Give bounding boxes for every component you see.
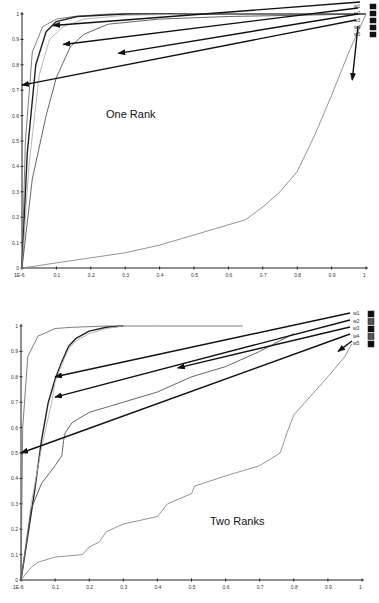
y-tick-label: 0.4 bbox=[12, 163, 19, 169]
series-line-w1 bbox=[21, 326, 243, 580]
x-tick-label: 1 bbox=[363, 272, 366, 278]
y-tick-label: 0.7 bbox=[11, 399, 18, 405]
legend-swatch-w4 bbox=[368, 334, 374, 340]
y-tick-label: 0.8 bbox=[11, 374, 18, 380]
y-tick-label: 0.2 bbox=[12, 214, 19, 220]
x-tick-label: 0.5 bbox=[191, 272, 198, 278]
y-tick-label: 0.1 bbox=[11, 552, 18, 558]
x-tick-label: 1 bbox=[359, 584, 362, 590]
y-tick-label: 0.3 bbox=[11, 501, 18, 507]
y-tick-label: 0.5 bbox=[12, 138, 19, 144]
legend-swatch-w5 bbox=[368, 341, 374, 347]
y-tick-label: 1 bbox=[16, 11, 19, 17]
legend-swatch-w1 bbox=[370, 4, 376, 9]
x-tick-label: 0.1 bbox=[52, 584, 59, 590]
x-tick-label: 0.5 bbox=[189, 584, 196, 590]
arrow-w3 bbox=[178, 327, 350, 368]
y-tick-label: 0.6 bbox=[11, 425, 18, 431]
x-tick-label: 0.2 bbox=[88, 272, 95, 278]
y-tick-label: 0.8 bbox=[12, 62, 19, 68]
legend-label-w1: w1 bbox=[353, 310, 360, 316]
chart-annotation: Two Ranks bbox=[210, 515, 265, 527]
x-tick-label: 0.4 bbox=[154, 584, 161, 590]
x-tick-label: 0.7 bbox=[260, 272, 267, 278]
legend-label-w4: w4 bbox=[353, 333, 360, 339]
x-tick-label: 0.8 bbox=[291, 584, 298, 590]
series-line-w2 bbox=[21, 326, 123, 580]
figure: 1E-60.10.20.30.40.50.60.70.80.9100.10.20… bbox=[0, 0, 379, 603]
y-tick-label: 0 bbox=[16, 265, 19, 271]
arrow-w4 bbox=[22, 20, 356, 85]
y-tick-label: 0.6 bbox=[12, 113, 19, 119]
legend-swatch-w2 bbox=[370, 11, 376, 16]
x-tick-label: 0.3 bbox=[122, 272, 129, 278]
x-tick-label: 0.9 bbox=[325, 584, 332, 590]
x-tick-label: 0.6 bbox=[223, 584, 230, 590]
series-line-w3 bbox=[21, 326, 123, 580]
chart-annotation: One Rank bbox=[106, 108, 156, 120]
arrow-w5 bbox=[338, 341, 352, 351]
x-tick-label: 1E-6 bbox=[14, 272, 25, 278]
y-tick-label: 0.1 bbox=[12, 240, 19, 246]
legend-label-w5: w5 bbox=[353, 340, 360, 346]
y-tick-label: 0.7 bbox=[12, 87, 19, 93]
y-tick-label: 0.5 bbox=[11, 450, 18, 456]
y-tick-label: 0.9 bbox=[12, 36, 19, 42]
x-tick-label: 0.3 bbox=[120, 584, 127, 590]
legend-label-w2: w2 bbox=[353, 318, 360, 324]
arrow-w2 bbox=[55, 320, 350, 397]
legend-swatch-w5 bbox=[370, 32, 376, 37]
y-tick-label: 0.4 bbox=[11, 475, 18, 481]
legend-swatch-w1 bbox=[368, 311, 374, 317]
x-tick-label: 0.6 bbox=[225, 272, 232, 278]
x-tick-label: 0.4 bbox=[157, 272, 164, 278]
x-tick-label: 0.1 bbox=[53, 272, 60, 278]
legend-swatch-w2 bbox=[368, 319, 374, 325]
y-tick-label: 0.2 bbox=[11, 526, 18, 532]
y-tick-label: 0 bbox=[15, 577, 18, 583]
x-tick-label: 0.7 bbox=[257, 584, 264, 590]
legend-label-w3: w3 bbox=[353, 325, 360, 331]
y-tick-label: 1 bbox=[15, 323, 18, 329]
one-rank-chart: 1E-60.10.20.30.40.50.60.70.80.9100.10.20… bbox=[12, 2, 376, 278]
y-tick-label: 0.3 bbox=[12, 189, 19, 195]
arrow-w1 bbox=[55, 313, 350, 377]
x-tick-label: 1E-6 bbox=[13, 584, 24, 590]
legend-swatch-w3 bbox=[370, 18, 376, 23]
two-ranks-chart: 1E-60.10.20.30.40.50.60.70.80.9100.10.20… bbox=[11, 310, 374, 590]
legend-swatch-w3 bbox=[368, 326, 374, 332]
legend-swatch-w4 bbox=[370, 25, 376, 30]
x-tick-label: 0.8 bbox=[294, 272, 301, 278]
y-tick-label: 0.9 bbox=[11, 348, 18, 354]
x-tick-label: 0.2 bbox=[86, 584, 93, 590]
x-tick-label: 0.9 bbox=[329, 272, 336, 278]
